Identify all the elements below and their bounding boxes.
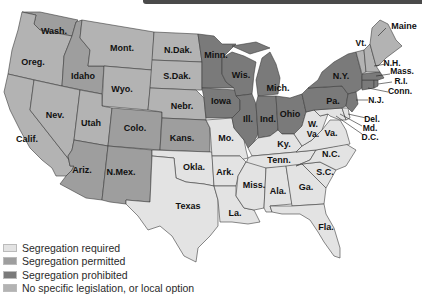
legend-item-required: Segregation required	[3, 241, 194, 255]
state-label: Ala.	[270, 186, 287, 196]
state-label: Miss.	[243, 180, 266, 190]
state-label: Ohio	[280, 109, 301, 119]
state-label: W.	[308, 119, 318, 129]
state-label: R.I.	[394, 76, 407, 86]
state-label: Tenn.	[267, 155, 290, 165]
legend-swatch	[3, 257, 17, 265]
state-label: Fla.	[318, 222, 334, 232]
state-label: La.	[228, 208, 241, 218]
state-label: N.C.	[322, 149, 340, 159]
state-label: Mont.	[110, 43, 134, 53]
state-label: N.J.	[368, 95, 384, 105]
state-label: Va.	[324, 128, 337, 138]
state-label: Nebr.	[171, 101, 194, 111]
state-label: Conn.	[388, 86, 412, 96]
state-label: Vt.	[356, 38, 367, 48]
state-label: Okla.	[183, 162, 205, 172]
legend-item-none: No specific legislation, or local option	[3, 282, 194, 294]
legend-label: Segregation prohibited	[22, 269, 128, 281]
state-label: N.Y.	[333, 71, 350, 81]
state-label: Mo.	[218, 133, 234, 143]
legend-label: No specific legislation, or local option	[22, 282, 194, 294]
state-label: Oreg.	[21, 57, 45, 67]
state-label: Mich.	[266, 83, 289, 93]
state-label: Maine	[391, 21, 417, 31]
state-label: S.Dak.	[163, 71, 191, 81]
state-label: Nev.	[46, 110, 64, 120]
state-label: Kans.	[170, 133, 195, 143]
leader-line	[378, 82, 392, 84]
state-label: N.H.	[384, 58, 401, 68]
state-label: Idaho	[71, 71, 96, 81]
state-conn[interactable]	[362, 80, 374, 90]
state-label: Ky.	[277, 139, 290, 149]
legend-item-prohibited: Segregation prohibited	[3, 268, 194, 282]
state-label: Colo.	[124, 123, 147, 133]
state-label: Wis.	[232, 70, 250, 80]
legend-swatch	[3, 284, 17, 292]
legend-label: Segregation permitted	[22, 255, 125, 267]
state-label: Ariz.	[72, 165, 92, 175]
state-label: Ind.	[260, 114, 276, 124]
state-label: Wash.	[41, 26, 67, 36]
state-label: Ill.	[243, 114, 253, 124]
state-ri[interactable]	[374, 80, 378, 88]
state-label: Wyo.	[111, 84, 132, 94]
state-label: N.Dak.	[164, 45, 192, 55]
state-label: D.C.	[362, 132, 379, 142]
state-label: Texas	[176, 201, 201, 211]
state-label: N.Mex.	[106, 167, 135, 177]
legend-swatch	[3, 244, 17, 252]
legend-item-permitted: Segregation permitted	[3, 255, 194, 269]
state-label: Calif.	[16, 134, 38, 144]
state-label: Va.	[307, 129, 319, 139]
legend-swatch	[3, 271, 17, 279]
state-label: S.C.	[316, 167, 334, 177]
state-label: Ark.	[216, 167, 234, 177]
legend: Segregation required Segregation permitt…	[3, 241, 194, 294]
state-label: Pa.	[326, 96, 340, 106]
state-pa[interactable]	[302, 86, 348, 112]
leader-line	[368, 88, 388, 92]
state-label: Ga.	[299, 182, 314, 192]
state-label: Iowa	[211, 96, 232, 106]
state-label: Utah	[81, 118, 101, 128]
state-label: Minn.	[204, 50, 228, 60]
legend-label: Segregation required	[22, 242, 120, 254]
state-mass[interactable]	[362, 72, 384, 80]
